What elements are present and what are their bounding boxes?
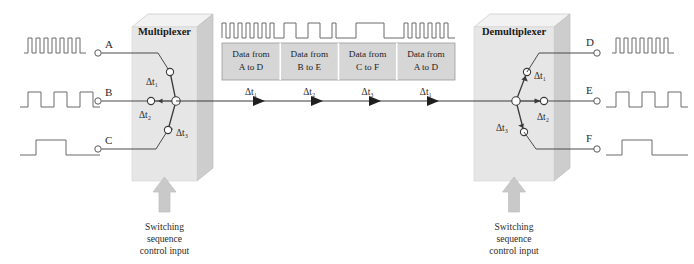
frame-3-interval: Δt₃ [362,87,374,97]
output-label-f: F [586,132,592,144]
demux-control-line-1: Switching [495,221,534,232]
terminal-node-c[interactable] [95,146,101,152]
output-label-d: D [586,36,594,48]
mux-contact-dt3[interactable] [164,126,171,133]
trunk-arrowhead-4 [427,96,439,106]
mux-contact-dt2[interactable] [147,97,154,104]
mux-control-line-2: sequence [147,233,182,244]
output-waveform-d [612,38,674,53]
multiplexed-waveform [222,23,455,38]
frame-1-line1: Data from [232,49,270,59]
demultiplexer-control-caption: Switching sequence control input [489,221,539,256]
input-waveform-a [24,38,86,53]
frame-2-line1: Data from [291,49,329,59]
mux-dt1-label: Δt₁ [146,77,158,87]
mux-dt2-label: Δt₂ [139,110,151,120]
frame-1-interval: Δt₁ [245,87,257,97]
demux-dt3-label: Δt₃ [496,123,508,133]
demultiplexer-block: Demultiplexer [474,14,570,181]
demux-control-line-2: sequence [496,233,531,244]
frame-3-line2: C to F [356,62,379,72]
trunk-arrowhead-3 [369,96,381,106]
output-label-e: E [586,84,593,96]
mux-dt3-label: Δt₃ [176,128,188,138]
trunk-arrowhead-1 [253,96,265,106]
frame-3-line1: Data from [349,49,387,59]
tdm-frame-strip: Data from A to D Δt₁ Data from B to E Δt… [222,43,455,97]
demultiplexer-block-side-face [554,14,570,181]
demux-dt1-label: Δt₁ [534,71,546,81]
mux-control-line-1: Switching [145,221,184,232]
mux-contact-dt1[interactable] [166,68,173,75]
multiplexer-control-caption: Switching sequence control input [140,221,190,256]
terminal-node-d[interactable] [594,50,600,56]
demux-dt2-label: Δt₂ [537,112,549,122]
frame-2-interval: Δt₂ [303,87,315,97]
demultiplexer-label: Demultiplexer [482,26,546,37]
frame-4-interval: Δt₁ [420,87,432,97]
demultiplexer-control-arrow [503,177,526,212]
multiplexer-block: Multiplexer [132,14,213,181]
terminal-node-e[interactable] [594,98,600,104]
tdm-diagram: Multiplexer Demultiplexer A B [0,0,694,264]
output-waveform-f [606,140,688,155]
input-label-c: C [105,134,112,146]
demux-control-arrow-icon [503,177,526,212]
frame-1-line2: A to D [239,62,264,72]
trunk-arrowhead-2 [311,96,323,106]
transmission-line [176,96,516,106]
frame-2-line2: B to E [298,62,322,72]
multiplexer-control-arrow [153,177,176,212]
demux-control-line-3: control input [489,245,539,256]
demux-contact-dt2[interactable] [540,97,547,104]
demux-switch-pivot[interactable] [512,97,520,105]
input-label-a: A [105,38,113,50]
terminal-node-b[interactable] [95,98,101,104]
mux-control-arrow-icon [153,177,176,212]
frame-4-line2: A to D [414,62,439,72]
input-label-b: B [105,86,112,98]
multiplexer-label: Multiplexer [138,26,191,37]
frame-4-line1: Data from [407,49,445,59]
input-waveform-b [20,92,100,107]
multiplexer-block-front-face [132,27,197,181]
multiplexer-block-side-face [197,14,213,181]
input-waveform-c [20,140,100,155]
output-waveform-e [606,92,688,107]
terminal-node-a[interactable] [95,50,101,56]
terminal-node-f[interactable] [594,146,600,152]
mux-control-line-3: control input [140,245,190,256]
